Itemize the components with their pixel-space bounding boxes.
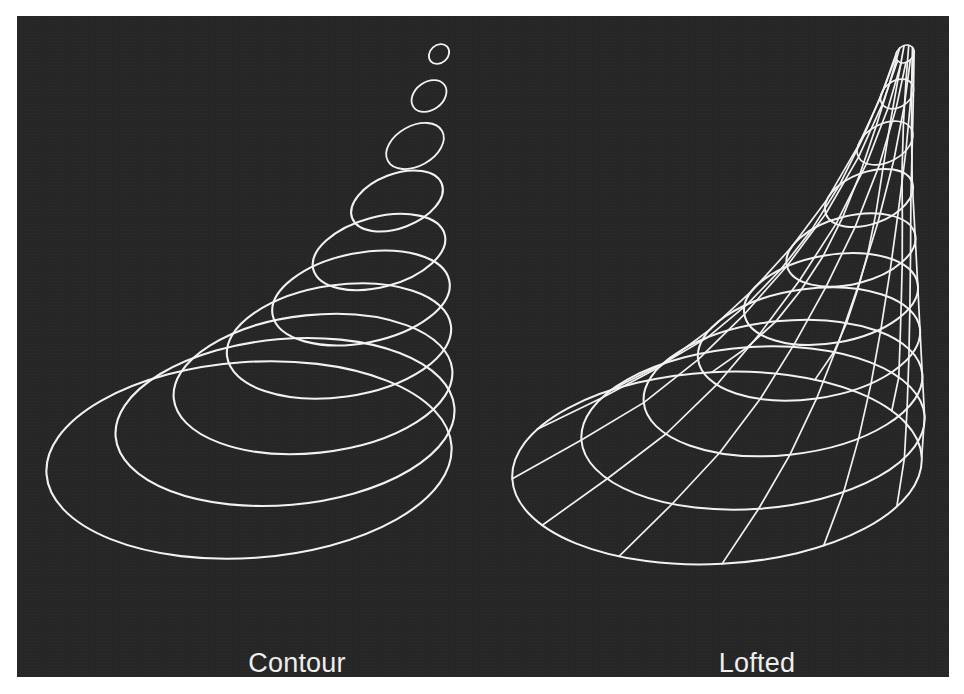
loft-rail bbox=[722, 60, 910, 564]
lofted-surface-rails-group bbox=[512, 45, 924, 564]
caption-lofted-line1: Lofted bbox=[657, 647, 857, 677]
contour-ellipse bbox=[425, 40, 453, 68]
contour-ellipse bbox=[108, 324, 461, 519]
contour-curves-group bbox=[40, 40, 462, 572]
lofted-surface-sections-group bbox=[507, 41, 930, 574]
contour-ellipse bbox=[405, 74, 452, 119]
illustration-panel: Contour Curves Lofted Surface bbox=[17, 16, 949, 677]
caption-contour-line1: Contour bbox=[197, 647, 397, 677]
contour-ellipse bbox=[576, 335, 930, 521]
contour-ellipse bbox=[817, 158, 921, 238]
contour-ellipse bbox=[690, 274, 927, 414]
contour-ellipse bbox=[40, 348, 459, 572]
wireframe-canvas bbox=[17, 16, 949, 677]
contour-ellipse bbox=[304, 201, 453, 304]
contour-ellipse bbox=[378, 113, 452, 178]
caption-lofted-surface: Lofted Surface bbox=[657, 581, 857, 677]
contour-ellipse bbox=[507, 361, 926, 574]
figure-root: Contour Curves Lofted Surface bbox=[0, 0, 964, 694]
caption-contour-curves: Contour Curves bbox=[197, 581, 397, 677]
loft-rail bbox=[512, 61, 897, 479]
loft-rail bbox=[815, 46, 904, 380]
loft-rail bbox=[542, 63, 901, 525]
loft-rail bbox=[537, 57, 896, 430]
contour-ellipse bbox=[637, 307, 929, 470]
contour-ellipse bbox=[343, 159, 452, 244]
